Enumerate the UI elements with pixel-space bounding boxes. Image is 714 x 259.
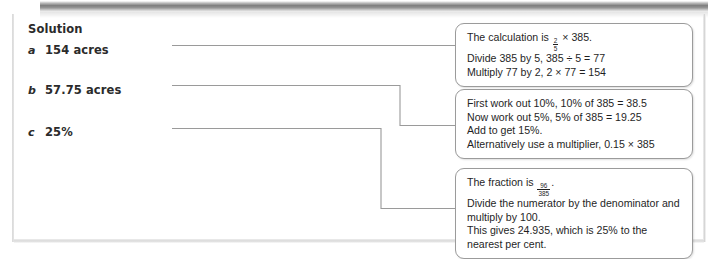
- connector-line-c: [172, 129, 455, 209]
- page-left-edge: [12, 14, 14, 242]
- answer-text-b: 57.75 acres: [45, 83, 121, 97]
- answer-row-c: c 25%: [28, 125, 248, 139]
- fraction-denominator: 385: [537, 189, 550, 197]
- page-right-edge: [703, 14, 706, 242]
- callout-line: This gives 24.935, which is 25% to the n…: [467, 224, 681, 251]
- page-top-bar-shadow: [40, 12, 708, 18]
- callout-text-after: .: [551, 176, 554, 188]
- callout-box-a: The calculation is 25 × 385.Divide 385 b…: [455, 23, 693, 87]
- callout-line: Add to get 15%.: [467, 124, 681, 138]
- callout-box-c: The fraction is 96385.Divide the numerat…: [455, 168, 693, 259]
- answer-row-a: a 154 acres: [28, 43, 248, 57]
- callout-text-before: The calculation is: [467, 31, 552, 43]
- answer-letter-b: b: [28, 84, 45, 97]
- callout-line: Multiply 77 by 2, 2 × 77 = 154: [467, 66, 681, 80]
- fraction-denominator: 5: [553, 44, 559, 52]
- answer-text-a: 154 acres: [45, 43, 109, 57]
- answer-letter-a: a: [28, 44, 45, 57]
- callout-line: The calculation is 25 × 385.: [467, 31, 681, 52]
- inline-fraction: 96385: [537, 182, 550, 197]
- inline-fraction: 25: [553, 37, 559, 52]
- solution-heading: Solution: [28, 22, 248, 36]
- page-top-dark-bar: [40, 1, 708, 12]
- solution-answers-column: Solution a 154 acres b 57.75 acres c 25%: [28, 22, 248, 139]
- callout-line: Divide 385 by 5, 385 ÷ 5 = 77: [467, 52, 681, 66]
- callout-line: The fraction is 96385.: [467, 176, 681, 197]
- answer-text-c: 25%: [45, 125, 73, 139]
- answer-row-b: b 57.75 acres: [28, 83, 248, 97]
- callout-line: First work out 10%, 10% of 385 = 38.5: [467, 97, 681, 111]
- callout-text-after: × 385.: [559, 31, 592, 43]
- callout-box-b: First work out 10%, 10% of 385 = 38.5Now…: [455, 89, 693, 159]
- callout-line: Now work out 5%, 5% of 385 = 19.25: [467, 111, 681, 125]
- answer-letter-c: c: [28, 126, 45, 139]
- fraction-numerator: 2: [553, 37, 559, 44]
- callout-text-before: The fraction is: [467, 176, 536, 188]
- fraction-numerator: 96: [539, 182, 548, 189]
- callout-line: Divide the numerator by the denominator …: [467, 197, 681, 224]
- callout-line: Alternatively use a multiplier, 0.15 × 3…: [467, 138, 681, 152]
